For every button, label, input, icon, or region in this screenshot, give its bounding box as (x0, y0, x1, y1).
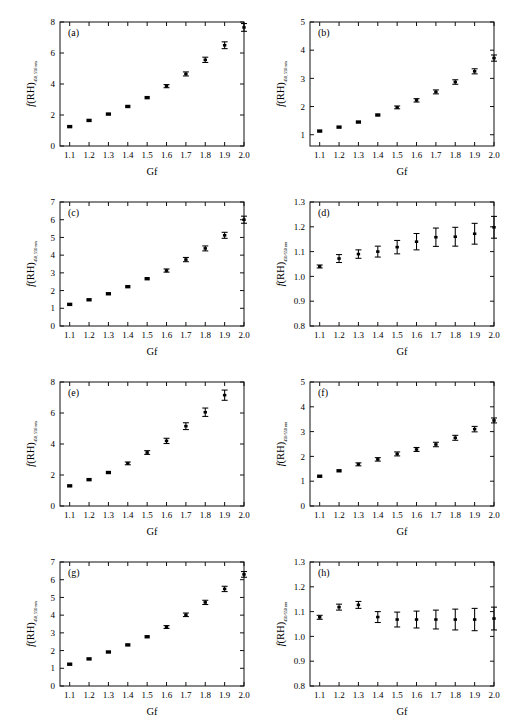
y-tick-label: 5 (51, 233, 56, 243)
x-tick-label: 2.0 (488, 150, 500, 160)
data-point (145, 277, 150, 280)
data-point (222, 586, 228, 591)
y-tick-label: 2 (51, 286, 56, 296)
data-point (336, 604, 342, 610)
y-tick-label: 0 (51, 321, 56, 331)
y-tick-label: 1.0 (294, 632, 306, 642)
y-tick-label: 2 (51, 646, 56, 656)
data-point (183, 257, 189, 261)
y-tick-label: 3 (51, 268, 56, 278)
y-tick-label: 0 (51, 681, 56, 691)
x-tick-label: 1.9 (469, 330, 481, 340)
data-point (183, 72, 189, 76)
data-point (317, 475, 322, 478)
data-point (356, 120, 361, 123)
y-tick-label: 0.8 (294, 681, 306, 691)
panel-b: 1.11.21.31.41.51.61.71.81.92.012345(b)Gf… (264, 8, 504, 188)
y-tick-label: 0 (301, 501, 306, 511)
data-point (472, 608, 478, 630)
y-tick-label: 4 (51, 250, 56, 260)
panel-letter: (c) (68, 207, 79, 219)
y-tick-label: 4 (51, 610, 56, 620)
y-tick-label: 2 (51, 110, 56, 120)
data-point (67, 663, 72, 666)
data-point (394, 452, 400, 456)
x-tick-label: 2.0 (238, 150, 250, 160)
plot-area-e: 1.11.21.31.41.51.61.71.81.92.002468(e)Gf… (14, 368, 254, 548)
y-tick-label: 3 (301, 427, 306, 437)
x-tick-label: 1.3 (103, 150, 115, 160)
x-axis-label: Gf (146, 166, 158, 177)
y-tick-label: 0.8 (294, 321, 306, 331)
data-point (183, 613, 189, 617)
y-tick-label: 5 (301, 17, 306, 27)
y-tick-label: 1.3 (294, 557, 306, 567)
x-tick-label: 1.5 (392, 510, 404, 520)
data-point (106, 650, 111, 653)
data-point (86, 478, 91, 481)
y-tick-label: 1.1 (294, 247, 305, 257)
plot-area-c: 1.11.21.31.41.51.61.71.81.92.001234567(c… (14, 188, 254, 368)
svg-text:f(RH)450, 550 nm: f(RH)450, 550 nm (25, 600, 39, 646)
data-point (144, 451, 150, 455)
x-tick-label: 1.8 (200, 690, 212, 700)
data-point (164, 438, 170, 443)
y-axis-label: f(RH)450, 550 nm (25, 240, 39, 286)
x-tick-label: 1.5 (392, 690, 404, 700)
y-axis-label: f(RH)450/550 nm (275, 601, 288, 646)
panel-g: 1.11.21.31.41.51.61.71.81.92.001234567(g… (14, 548, 254, 728)
x-axis-label: Gf (396, 346, 408, 357)
data-point (414, 99, 420, 102)
data-point (164, 626, 170, 629)
svg-text:f(RH)450/550 nm: f(RH)450/550 nm (275, 601, 288, 646)
x-tick-label: 1.4 (372, 150, 384, 160)
x-tick-label: 1.9 (219, 150, 231, 160)
y-axis-label: f(RH)450, 550 nm (25, 420, 39, 466)
x-tick-label: 1.7 (430, 150, 442, 160)
x-tick-label: 1.2 (83, 690, 94, 700)
data-point (375, 246, 381, 257)
y-tick-label: 1 (301, 476, 306, 486)
panel-d: 1.11.21.31.41.51.61.71.81.92.00.80.91.01… (264, 188, 504, 368)
x-tick-label: 1.5 (142, 690, 154, 700)
y-tick-label: 5 (301, 377, 306, 387)
y-tick-label: 0 (51, 141, 56, 151)
y-tick-label: 4 (301, 402, 306, 412)
data-point (67, 125, 72, 128)
data-point (125, 105, 130, 108)
plot-area-h: 1.11.21.31.41.51.61.71.81.92.00.80.91.01… (264, 548, 504, 728)
x-tick-label: 1.6 (161, 330, 173, 340)
data-point (106, 112, 111, 115)
y-tick-label: 6 (51, 408, 56, 418)
x-tick-label: 1.9 (469, 150, 481, 160)
data-point (106, 292, 111, 295)
x-tick-label: 1.2 (83, 510, 94, 520)
svg-text:f(RH)450, 550 nm: f(RH)450, 550 nm (25, 60, 39, 106)
data-point (355, 601, 361, 608)
data-point (491, 607, 497, 630)
panel-c: 1.11.21.31.41.51.61.71.81.92.001234567(c… (14, 188, 254, 368)
x-tick-label: 1.6 (161, 510, 173, 520)
y-axis-label: f(RH)450, 550 nm (275, 60, 289, 106)
x-tick-label: 1.5 (142, 150, 154, 160)
data-point (86, 119, 91, 122)
data-point (67, 484, 72, 487)
x-tick-label: 1.7 (430, 510, 442, 520)
x-tick-label: 1.9 (469, 510, 481, 520)
data-point (472, 426, 478, 431)
panel-letter: (e) (68, 387, 79, 399)
svg-text:f(RH)450, 550 nm: f(RH)450, 550 nm (25, 240, 39, 286)
plot-area-f: 1.11.21.31.41.51.61.71.81.92.0012345(f)G… (264, 368, 504, 548)
data-point (452, 80, 458, 85)
x-tick-label: 1.3 (353, 690, 365, 700)
x-tick-label: 1.4 (122, 150, 134, 160)
x-axis-label: Gf (396, 706, 408, 717)
panel-letter: (d) (318, 207, 330, 219)
x-tick-label: 1.3 (353, 510, 365, 520)
svg-text:f(RH)450/550 nm: f(RH)450/550 nm (275, 421, 288, 466)
x-axis-label: Gf (146, 706, 158, 717)
svg-text:f(RH)450/550 nm: f(RH)450/550 nm (275, 241, 288, 286)
data-point (145, 96, 150, 99)
data-point (414, 447, 420, 451)
x-tick-label: 1.6 (411, 330, 423, 340)
